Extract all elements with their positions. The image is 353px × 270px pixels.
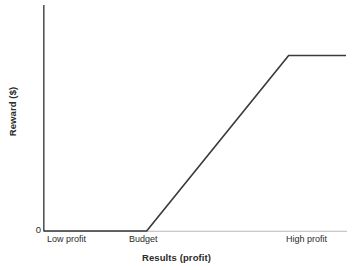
- x-tick-label-low-profit: Low profit: [47, 234, 86, 244]
- chart-figure: Reward ($) Results (profit) 0 Low profit…: [0, 0, 353, 270]
- plot-area: [0, 0, 353, 270]
- x-axis-title: Results (profit): [0, 252, 353, 263]
- reward-curve: [44, 56, 346, 232]
- y-tick-label-zero: 0: [30, 224, 41, 235]
- y-axis-title-text: Reward ($): [8, 86, 19, 136]
- x-axis-title-text: Results (profit): [142, 252, 211, 263]
- x-tick-label-high-profit: High profit: [286, 234, 327, 244]
- x-tick-label-budget: Budget: [129, 234, 158, 244]
